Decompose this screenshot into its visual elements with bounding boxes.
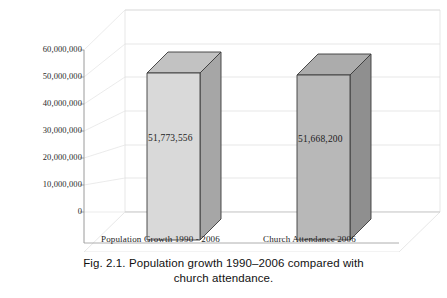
y-tick-label-0: 0 xyxy=(10,207,82,216)
bar-population-growth[interactable] xyxy=(147,52,221,240)
bar-1-front-face xyxy=(147,73,200,240)
y-tick-label-50000000: 50,000,000 xyxy=(10,72,82,81)
y-tick-label-40000000: 40,000,000 xyxy=(10,99,82,108)
bar-value-label-church-attendance: 51,668,200 xyxy=(298,134,343,144)
floor-plane xyxy=(84,212,440,252)
category-label-population-growth: Population Growth 1990 - 2006 xyxy=(101,234,220,244)
y-tick-label-30000000: 30,000,000 xyxy=(10,126,82,135)
category-label-church-attendance: Church Attendance 2006 xyxy=(263,234,356,244)
figure-caption-line-2: church attendance. xyxy=(0,271,447,286)
bar-value-label-population-growth: 51,773,556 xyxy=(148,133,193,143)
figure-caption-line-1: Fig. 2.1. Population growth 1990–2006 co… xyxy=(0,256,447,271)
y-tick-label-60000000: 60,000,000 xyxy=(10,45,82,54)
chart-plot-area: 60,000,000 50,000,000 40,000,000 30,000,… xyxy=(0,0,447,252)
figure-caption: Fig. 2.1. Population growth 1990–2006 co… xyxy=(0,256,447,286)
bar-2-front-face xyxy=(297,75,350,240)
depth-connector-lines xyxy=(84,10,125,212)
bar-1-side-face xyxy=(200,52,221,240)
y-axis-tick-labels: 60,000,000 50,000,000 40,000,000 30,000,… xyxy=(6,0,82,252)
bar-church-attendance[interactable] xyxy=(297,54,371,240)
bar-2-side-face xyxy=(350,54,371,240)
figure-screenshot: 60,000,000 50,000,000 40,000,000 30,000,… xyxy=(0,0,447,298)
y-tick-label-20000000: 20,000,000 xyxy=(10,153,82,162)
y-tick-label-10000000: 10,000,000 xyxy=(10,180,82,189)
